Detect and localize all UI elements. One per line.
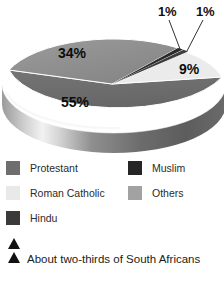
legend-item-others[interactable]: Others (128, 186, 184, 200)
legend-swatch-hindu (6, 211, 20, 225)
pie-value-label-roman-catholic: 9% (179, 61, 199, 77)
pie-chart: 34% 55% 9% 1% 1% (0, 0, 224, 156)
legend-swatch-roman-catholic (6, 186, 20, 200)
legend-label-muslim: Muslim (152, 163, 185, 174)
chart-legend: Protestant Roman Catholic Hindu Muslim O… (0, 157, 224, 235)
pie-value-label-medium: 34% (58, 45, 86, 61)
triangle-up-icon (8, 252, 20, 263)
legend-swatch-muslim (128, 161, 142, 175)
footnote: About two-thirds of South Africans (0, 236, 224, 281)
pie-value-label-protestant: 55% (61, 94, 89, 110)
legend-label-others: Others (152, 188, 184, 199)
legend-label-roman-catholic: Roman Catholic (30, 188, 105, 199)
triangle-up-icon (8, 238, 20, 249)
footnote-text: About two-thirds of South Africans (27, 253, 200, 265)
legend-item-muslim[interactable]: Muslim (128, 161, 185, 175)
callout-leader-line-muslim (187, 20, 203, 51)
legend-label-protestant: Protestant (30, 163, 78, 174)
pie-callout-label-muslim: 1% (196, 4, 214, 19)
pie-top-face (2, 35, 224, 133)
legend-item-roman-catholic[interactable]: Roman Catholic (6, 186, 105, 200)
legend-item-hindu[interactable]: Hindu (6, 211, 57, 225)
pie-callout-label-hindu: 1% (158, 4, 176, 19)
pie-chart-graphic (0, 0, 224, 156)
legend-label-hindu: Hindu (30, 213, 57, 224)
legend-swatch-protestant (6, 161, 20, 175)
legend-swatch-others (128, 186, 142, 200)
legend-item-protestant[interactable]: Protestant (6, 161, 78, 175)
callout-leader-line-hindu (169, 20, 180, 49)
